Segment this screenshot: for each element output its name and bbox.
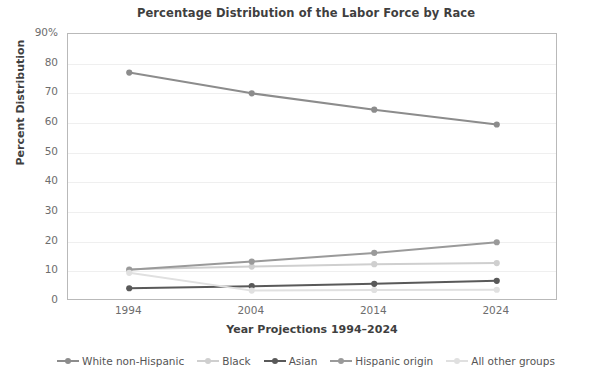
- legend-marker-icon: [264, 356, 286, 366]
- y-axis-tick-label: 50: [14, 145, 58, 157]
- data-point: [494, 260, 500, 266]
- series-white-non-hispanic: [126, 69, 500, 127]
- y-axis-tick-label: 20: [14, 234, 58, 246]
- legend-marker-icon: [330, 356, 352, 366]
- plot-area: [67, 33, 557, 300]
- data-point: [371, 107, 377, 113]
- legend-item-black[interactable]: Black: [197, 355, 250, 367]
- chart-title: Percentage Distribution of the Labor For…: [0, 6, 612, 20]
- x-axis-tick-label: 2014: [338, 304, 408, 316]
- data-point: [494, 239, 500, 245]
- data-point: [249, 288, 255, 294]
- y-axis-tick-label: 70: [14, 85, 58, 97]
- data-point: [371, 287, 377, 293]
- series-layer: [68, 34, 558, 301]
- legend-item-asian[interactable]: Asian: [264, 355, 318, 367]
- data-point: [126, 69, 132, 75]
- series-line: [129, 281, 497, 288]
- legend-label: Hispanic origin: [355, 355, 433, 367]
- chart-legend: White non-HispanicBlackAsianHispanic ori…: [0, 355, 612, 367]
- data-point: [249, 258, 255, 264]
- data-point: [371, 250, 377, 256]
- series-line: [129, 73, 497, 125]
- y-axis-tick-label: 80: [14, 56, 58, 68]
- data-point: [371, 261, 377, 267]
- legend-marker-icon: [197, 356, 219, 366]
- y-axis-tick-label: 30: [14, 204, 58, 216]
- data-point: [494, 121, 500, 127]
- data-point: [126, 270, 132, 276]
- y-axis-tick-label: 60: [14, 115, 58, 127]
- legend-item-all-other-groups[interactable]: All other groups: [446, 355, 555, 367]
- legend-label: Black: [222, 355, 250, 367]
- legend-item-hispanic-origin[interactable]: Hispanic origin: [330, 355, 433, 367]
- x-axis-tick-label: 1994: [93, 304, 163, 316]
- y-axis-tick-label: 10: [14, 263, 58, 275]
- data-point: [249, 90, 255, 96]
- x-axis-tick-label: 2024: [461, 304, 531, 316]
- line-chart: Percentage Distribution of the Labor For…: [0, 0, 612, 381]
- legend-marker-icon: [446, 356, 468, 366]
- legend-marker-icon: [57, 356, 79, 366]
- data-point: [126, 285, 132, 291]
- y-axis-tick-label: 0: [14, 293, 58, 305]
- data-point: [494, 287, 500, 293]
- data-point: [494, 278, 500, 284]
- legend-item-white-non-hispanic[interactable]: White non-Hispanic: [57, 355, 184, 367]
- y-axis-tick-label: 40: [14, 174, 58, 186]
- data-point: [371, 281, 377, 287]
- x-axis-tick-label: 2004: [216, 304, 286, 316]
- legend-label: Asian: [289, 355, 318, 367]
- x-axis-title: Year Projections 1994–2024: [67, 323, 557, 336]
- legend-label: All other groups: [471, 355, 555, 367]
- y-axis-tick-label: 90%: [14, 26, 58, 38]
- legend-label: White non-Hispanic: [82, 355, 184, 367]
